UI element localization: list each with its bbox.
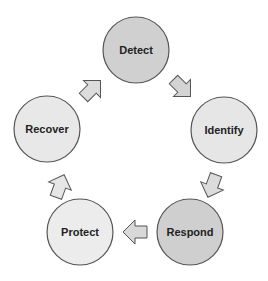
node-detect-label: Detect: [119, 44, 153, 56]
node-protect: Protect: [47, 199, 113, 265]
arrow-identify-to-respond: [197, 171, 228, 202]
node-detect: Detect: [103, 17, 169, 83]
arrow-protect-to-recover: [45, 171, 76, 202]
arrow-recover-to-detect: [75, 72, 109, 106]
node-identify-label: Identify: [204, 124, 244, 136]
arrow-detect-to-identify: [165, 71, 199, 105]
node-respond: Respond: [157, 199, 223, 265]
node-identify: Identify: [191, 97, 257, 163]
node-protect-label: Protect: [61, 226, 99, 238]
cycle-diagram: Detect Identify Respond Protect Recover: [0, 0, 268, 281]
node-recover-label: Recover: [25, 123, 69, 135]
arrow-respond-to-protect: [123, 220, 147, 244]
node-recover: Recover: [14, 96, 80, 162]
node-respond-label: Respond: [166, 226, 213, 238]
